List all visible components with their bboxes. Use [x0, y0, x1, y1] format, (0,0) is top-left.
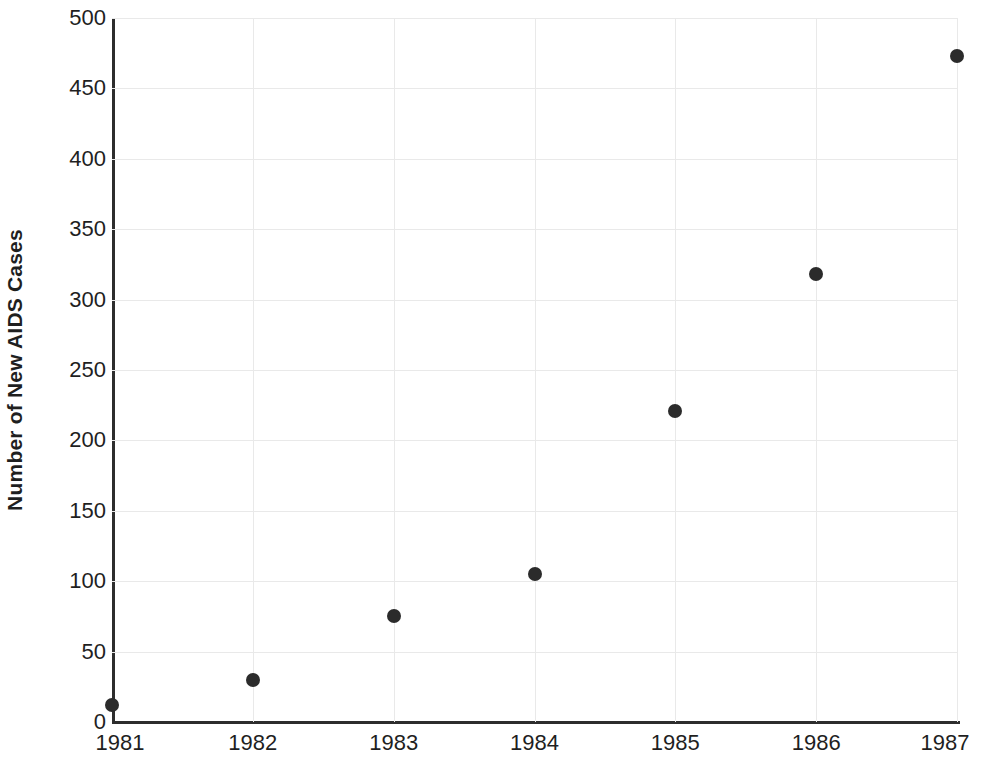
y-axis-tick-label: 200 [69, 427, 106, 453]
y-axis-tick-label: 50 [82, 639, 106, 665]
x-axis-tick-label: 1982 [228, 730, 277, 756]
y-axis-tick-label: 400 [69, 146, 106, 172]
gridline-vertical [253, 18, 254, 722]
data-point [387, 609, 401, 623]
x-axis-tick-label: 1983 [369, 730, 418, 756]
data-point [809, 267, 823, 281]
data-point [528, 567, 542, 581]
gridline-vertical [675, 18, 676, 722]
y-axis-title-text: Number of New AIDS Cases [3, 229, 27, 511]
plot-area [112, 18, 957, 722]
x-axis-tick-label: 1981 [96, 730, 145, 756]
data-point [246, 673, 260, 687]
data-point [668, 404, 682, 418]
data-point [105, 698, 119, 712]
gridline-vertical [535, 18, 536, 722]
x-axis-tick-label: 1986 [792, 730, 841, 756]
y-axis-tick-label: 450 [69, 75, 106, 101]
y-axis-tick-label: 350 [69, 216, 106, 242]
scatter-chart: Number of New AIDS Cases 050100150200250… [0, 0, 985, 774]
y-axis-tick-label: 250 [69, 357, 106, 383]
y-axis-tick-label: 150 [69, 498, 106, 524]
y-axis-tick-label: 300 [69, 287, 106, 313]
y-axis-title: Number of New AIDS Cases [0, 0, 30, 740]
x-axis-tick-label: 1987 [921, 730, 970, 756]
y-axis-tick-label: 100 [69, 568, 106, 594]
x-axis-tick-labels: 1981198219831984198519861987 [0, 730, 985, 774]
data-point [950, 49, 964, 63]
gridline-vertical [957, 18, 958, 722]
y-axis-tick-label: 500 [69, 5, 106, 31]
x-axis-tick-label: 1984 [510, 730, 559, 756]
x-axis-tick-label: 1985 [651, 730, 700, 756]
y-axis-tick-labels: 050100150200250300350400450500 [30, 0, 106, 774]
gridline-vertical [816, 18, 817, 722]
